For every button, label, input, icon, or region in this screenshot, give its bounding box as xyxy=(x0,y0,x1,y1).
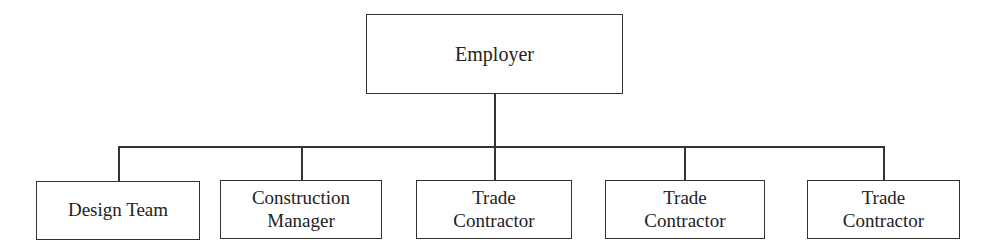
node-label-line-2: Contractor xyxy=(644,210,725,233)
connector-drop-design-team xyxy=(118,146,120,181)
node-construction-manager: Construction Manager xyxy=(220,180,382,239)
node-label-line-1: Trade xyxy=(862,187,906,210)
node-label: Employer xyxy=(455,42,534,66)
node-trade-contractor-3: Trade Contractor xyxy=(807,180,960,239)
node-employer: Employer xyxy=(366,14,623,94)
node-trade-contractor-2: Trade Contractor xyxy=(605,180,765,239)
node-label: Design Team xyxy=(68,199,168,222)
node-label-line-2: Contractor xyxy=(453,210,534,233)
node-trade-contractor-1: Trade Contractor xyxy=(416,180,572,239)
connector-drop-construction-manager xyxy=(301,146,303,181)
node-label-line-1: Trade xyxy=(472,187,516,210)
node-label-line-1: Trade xyxy=(663,187,707,210)
connector-drop-trade-contractor-1 xyxy=(494,146,496,181)
node-label-line-2: Contractor xyxy=(843,210,924,233)
connector-drop-trade-contractor-3 xyxy=(883,146,885,181)
node-design-team: Design Team xyxy=(36,181,200,240)
connector-drop-trade-contractor-2 xyxy=(684,146,686,181)
connector-root-down xyxy=(494,93,496,146)
node-label-line-1: Construction xyxy=(252,187,350,210)
node-label-line-2: Manager xyxy=(267,210,335,233)
connector-horizontal-bus xyxy=(118,146,884,148)
